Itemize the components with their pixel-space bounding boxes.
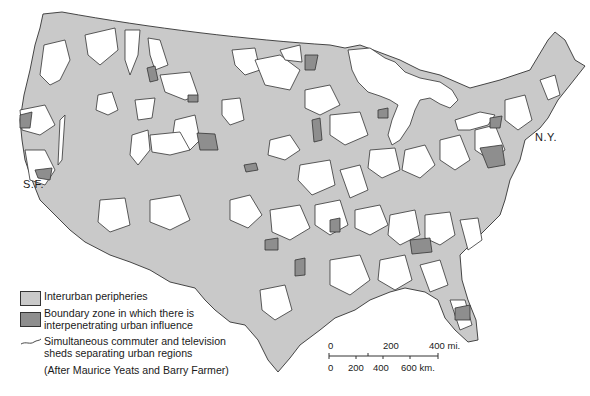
city-label-san-francisco: S.F.: [23, 178, 44, 190]
dark-gray-swatch-icon: [20, 312, 41, 327]
light-gray-swatch-icon: [20, 291, 41, 306]
scale-bar-line: [328, 352, 440, 360]
wavy-line-icon: [20, 338, 42, 346]
legend-credit: (After Maurice Yeats and Barry Farmer): [44, 364, 229, 377]
city-label-new-york: N.Y.: [535, 131, 557, 143]
scale-bar: 0 200 400 mi. 0 200 400 600 km.: [325, 340, 475, 380]
map-figure: { "figure": { "type": "thematic-map", "r…: [0, 0, 590, 396]
